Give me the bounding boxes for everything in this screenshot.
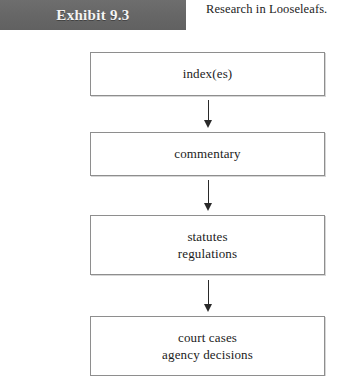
arrow-head <box>204 120 212 128</box>
flow-node-court-cases-line-1: court cases <box>162 329 253 346</box>
flow-node-court-cases: court cases agency decisions <box>90 316 325 376</box>
arrow-shaft <box>208 180 209 203</box>
flow-node-court-cases-line-2: agency decisions <box>162 346 253 363</box>
flow-arrow-down-icon <box>204 280 213 312</box>
flow-node-commentary: commentary <box>90 132 325 176</box>
arrow-head <box>204 304 212 312</box>
flow-node-index-line-1: index(es) <box>183 65 233 82</box>
arrow-shaft <box>208 280 209 304</box>
flow-node-statutes-line-1: statutes <box>178 228 237 245</box>
flow-arrow-down-icon <box>204 180 213 211</box>
flow-node-commentary-text: commentary <box>174 145 240 162</box>
flow-node-statutes-text: statutes regulations <box>178 228 237 262</box>
flow-node-index-text: index(es) <box>183 65 233 82</box>
arrow-head <box>204 203 212 211</box>
flow-node-statutes-line-2: regulations <box>178 245 237 262</box>
arrow-shaft <box>208 100 209 120</box>
flow-arrow-down-icon <box>204 100 213 128</box>
flow-node-statutes: statutes regulations <box>90 215 325 275</box>
flow-node-commentary-line-1: commentary <box>174 145 240 162</box>
flow-node-court-cases-text: court cases agency decisions <box>162 329 253 363</box>
flow-node-index: index(es) <box>90 52 325 96</box>
